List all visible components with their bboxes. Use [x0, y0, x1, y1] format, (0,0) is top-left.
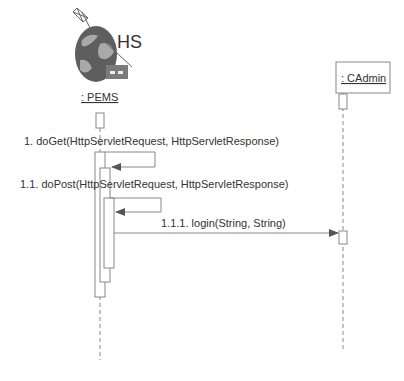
- lifeline-label-cadmin: : CAdmin: [341, 72, 386, 84]
- message-label-1-1: 1.1. doPost(HttpServletRequest, HttpServ…: [20, 178, 288, 190]
- sequence-diagram: HS : PEMS 1. doGet(HttpServletRequest, H…: [0, 0, 404, 381]
- activation-bar-cadmin[interactable]: [339, 231, 347, 244]
- lifeline-head-pems: [96, 113, 104, 128]
- message-1-1-dopost[interactable]: [110, 198, 161, 212]
- host-badge: HS: [117, 32, 142, 52]
- lifeline-head-cadmin: [339, 94, 347, 109]
- message-label-1: 1. doGet(HttpServletRequest, HttpServlet…: [24, 135, 279, 147]
- message-label-1-1-1: 1.1.1. login(String, String): [161, 217, 286, 229]
- message-1-doget[interactable]: [105, 152, 155, 167]
- activation-bar-pems-3[interactable]: [104, 198, 114, 268]
- lifeline-label-pems[interactable]: : PEMS: [81, 91, 118, 103]
